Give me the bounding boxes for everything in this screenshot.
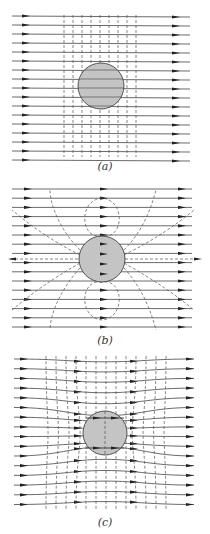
- arrowhead-icon: [178, 325, 186, 328]
- arrowhead-icon: [20, 503, 28, 506]
- arrowhead-icon: [74, 360, 82, 363]
- equipotential-line: [76, 356, 80, 510]
- arrowhead-icon: [22, 86, 30, 89]
- field-line: [12, 34, 190, 35]
- field-line: [12, 25, 190, 26]
- arrowhead-icon: [74, 480, 82, 483]
- arrowhead-icon: [22, 68, 30, 71]
- arrowhead-icon: [74, 390, 82, 393]
- arrowhead-icon: [130, 427, 138, 430]
- arrowhead-icon: [178, 243, 186, 246]
- arrowhead-icon: [178, 206, 186, 209]
- arrowhead-icon: [186, 445, 194, 448]
- arrowhead-icon: [22, 131, 30, 134]
- arrowhead-icon: [186, 377, 194, 380]
- field-line: [14, 359, 194, 362]
- arrowhead-icon: [172, 78, 180, 81]
- arrowhead-icon: [24, 243, 32, 246]
- arrowhead-icon: [172, 33, 180, 36]
- arrowhead-icon: [74, 501, 82, 504]
- arrowhead-icon: [20, 484, 28, 487]
- arrowhead-icon: [172, 15, 180, 18]
- arrowhead-icon: [186, 406, 194, 409]
- arrowhead-icon: [186, 425, 194, 428]
- arrowhead-icon: [186, 416, 194, 419]
- arrowhead-icon: [186, 357, 194, 360]
- arrowhead-icon: [100, 307, 108, 310]
- arrowhead-icon: [100, 187, 108, 190]
- arrowhead-icon: [178, 289, 186, 292]
- arrowhead-icon: [178, 252, 186, 255]
- arrowhead-icon: [8, 257, 16, 260]
- arrowhead-icon: [186, 387, 194, 390]
- arrowhead-icon: [172, 60, 180, 63]
- arrowhead-icon: [172, 105, 180, 108]
- arrowhead-icon: [130, 370, 138, 373]
- dipole-field-line: [124, 263, 194, 310]
- arrowhead-icon: [186, 484, 194, 487]
- arrowhead-icon: [74, 491, 82, 494]
- arrowhead-icon: [172, 96, 180, 99]
- arrowhead-icon: [100, 325, 108, 328]
- field-line: [14, 502, 194, 505]
- arrowhead-icon: [172, 141, 180, 144]
- arrowhead-icon: [130, 419, 138, 422]
- dipole-field-line: [50, 190, 80, 250]
- dipole-field-line: [12, 263, 80, 310]
- arrowhead-icon: [100, 289, 108, 292]
- arrowhead-icon: [24, 279, 32, 282]
- dipole-field-line: [85, 282, 120, 320]
- arrowhead-icon: [130, 480, 138, 483]
- arrowhead-icon: [24, 270, 32, 273]
- field-line: [14, 398, 194, 404]
- arrowhead-icon: [178, 270, 186, 273]
- arrowhead-icon: [74, 442, 82, 445]
- caption-a: (a): [0, 160, 210, 173]
- arrowhead-icon: [20, 464, 28, 467]
- arrowhead-icon: [74, 370, 82, 373]
- arrowhead-icon: [24, 233, 32, 236]
- arrowhead-icon: [178, 224, 186, 227]
- figure: [0, 0, 210, 534]
- field-line: [12, 142, 190, 143]
- arrowhead-icon: [178, 316, 186, 319]
- arrowhead-icon: [20, 474, 28, 477]
- arrowhead-icon: [20, 454, 28, 457]
- arrowhead-icon: [20, 377, 28, 380]
- field-line: [14, 470, 194, 475]
- panel-a: [12, 14, 190, 162]
- arrowhead-icon: [172, 51, 180, 54]
- arrowhead-icon: [74, 380, 82, 383]
- arrowhead-icon: [20, 387, 28, 390]
- arrowhead-icon: [24, 187, 32, 190]
- arrowhead-icon: [100, 215, 108, 218]
- arrowhead-icon: [22, 122, 30, 125]
- arrowhead-icon: [20, 435, 28, 438]
- arrowhead-icon: [186, 396, 194, 399]
- field-line: [12, 43, 190, 44]
- equipotential-line: [154, 356, 156, 510]
- field-line: [12, 115, 190, 116]
- arrowhead-icon: [24, 289, 32, 292]
- arrowhead-icon: [24, 252, 32, 255]
- arrowhead-icon: [178, 187, 186, 190]
- field-line: [14, 388, 194, 393]
- arrowhead-icon: [24, 215, 32, 218]
- field-line: [14, 459, 194, 465]
- arrowhead-icon: [178, 233, 186, 236]
- arrowhead-icon: [20, 396, 28, 399]
- arrowhead-icon: [100, 224, 108, 227]
- arrowhead-icon: [74, 427, 82, 430]
- arrowhead-icon: [74, 447, 82, 450]
- arrowhead-icon: [74, 419, 82, 422]
- arrowhead-icon: [74, 470, 82, 473]
- arrowhead-icon: [22, 14, 30, 17]
- arrowhead-icon: [130, 442, 138, 445]
- arrowhead-icon: [186, 367, 194, 370]
- arrowhead-icon: [22, 59, 30, 62]
- arrowhead-icon: [74, 434, 82, 437]
- arrowhead-icon: [20, 493, 28, 496]
- panel-b: [8, 187, 202, 330]
- arrowhead-icon: [20, 406, 28, 409]
- arrowhead-icon: [100, 298, 108, 301]
